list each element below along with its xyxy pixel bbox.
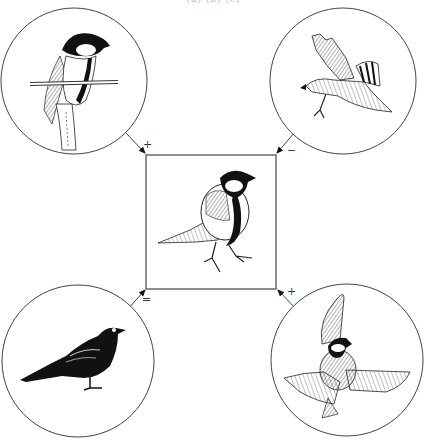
- sign-bottom-right: +: [287, 286, 296, 297]
- sign-top-right: −: [287, 145, 296, 156]
- sign-bottom-left: =: [142, 294, 151, 305]
- panel-bottom-right: [271, 284, 423, 436]
- interaction-diagram: [0, 0, 427, 443]
- center-panel: [146, 155, 276, 289]
- panel-bottom-left: [2, 285, 154, 437]
- connector-top-left: [125, 132, 145, 153]
- panel-top-left: [1, 8, 147, 154]
- panel-top-right: [270, 8, 416, 154]
- sign-top-left: +: [143, 139, 152, 150]
